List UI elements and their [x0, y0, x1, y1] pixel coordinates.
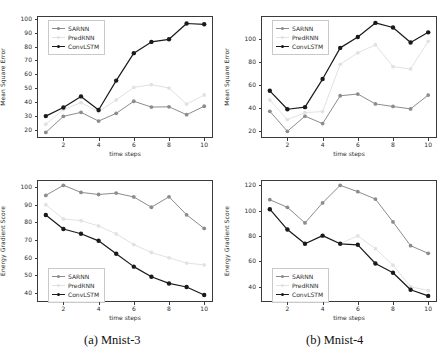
data-point: [303, 114, 307, 118]
data-point: [62, 114, 66, 118]
y-tick-label: 40: [233, 283, 256, 290]
data-point: [285, 107, 289, 111]
x-tick-label: 2: [277, 305, 297, 312]
x-tick-label: 6: [124, 305, 144, 312]
data-point: [44, 193, 48, 197]
data-point: [167, 195, 171, 199]
legend-item-sarnn[interactable]: SARNN: [276, 24, 323, 33]
data-point: [321, 110, 325, 114]
legend-label-sarnn: SARNN: [292, 24, 313, 33]
data-point: [150, 251, 154, 255]
legend-swatch-sarnn: [276, 276, 289, 277]
data-point: [374, 247, 378, 251]
legend-swatch-convlstm: [276, 46, 289, 47]
y-tick-label: 70: [9, 56, 32, 63]
y-tick-mark: [35, 293, 38, 294]
data-point: [391, 263, 395, 267]
y-tick-label: 120: [233, 181, 256, 188]
y-tick-mark: [35, 116, 38, 117]
x-tick-mark: [358, 138, 359, 141]
x-tick-label: 10: [418, 305, 438, 312]
y-tick-label: 80: [233, 232, 256, 239]
data-point: [356, 35, 360, 39]
x-tick-label: 10: [418, 141, 438, 148]
series-line: [270, 185, 428, 253]
y-tick-label: 40: [9, 289, 32, 296]
legend-label-convlstm: ConvLSTM: [68, 42, 99, 51]
series-layer: [224, 172, 448, 330]
data-point: [426, 39, 430, 43]
x-tick-mark: [63, 138, 64, 141]
x-tick-mark: [393, 138, 394, 141]
data-point: [356, 190, 360, 194]
y-tick-label: 60: [233, 257, 256, 264]
legend-item-predrnn[interactable]: PredRNN: [276, 281, 323, 290]
y-tick-mark: [259, 108, 262, 109]
data-point: [356, 234, 360, 238]
data-point: [338, 242, 342, 246]
data-point: [79, 232, 83, 236]
y-tick-label: 90: [9, 29, 32, 36]
chart-panel-mnist4-mse: Mean Square Error time steps SARNN PredR…: [224, 2, 448, 170]
legend-swatch-sarnn: [276, 28, 289, 29]
data-point: [185, 261, 189, 265]
data-point: [167, 256, 171, 260]
legend-item-predrnn[interactable]: PredRNN: [52, 281, 99, 290]
x-tick-mark: [169, 302, 170, 305]
y-tick-label: 20: [9, 126, 32, 133]
data-point: [303, 242, 307, 246]
data-point: [44, 114, 48, 118]
series-line: [270, 94, 428, 131]
y-tick-mark: [259, 62, 262, 63]
legend-item-convlstm[interactable]: ConvLSTM: [52, 42, 99, 51]
x-tick-mark: [99, 138, 100, 141]
x-tick-label: 4: [89, 141, 109, 148]
data-point: [97, 193, 101, 197]
data-point: [338, 183, 342, 187]
data-point: [408, 288, 412, 292]
legend-item-sarnn[interactable]: SARNN: [52, 24, 99, 33]
data-point: [356, 51, 360, 55]
data-point: [202, 227, 206, 231]
y-tick-label: 40: [9, 98, 32, 105]
data-point: [149, 40, 153, 44]
legend-swatch-convlstm: [52, 294, 65, 295]
legend-label-predrnn: PredRNN: [68, 281, 95, 290]
y-tick-label: 40: [233, 104, 256, 111]
legend-item-convlstm[interactable]: ConvLSTM: [276, 290, 323, 299]
data-point: [426, 289, 430, 293]
legend-item-predrnn[interactable]: PredRNN: [276, 33, 323, 42]
data-point: [303, 221, 307, 225]
x-tick-label: 8: [383, 141, 403, 148]
data-point: [62, 183, 66, 187]
y-tick-label: 60: [9, 70, 32, 77]
legend-item-sarnn[interactable]: SARNN: [52, 272, 99, 281]
x-tick-label: 2: [277, 141, 297, 148]
y-tick-label: 90: [9, 201, 32, 208]
data-point: [426, 93, 430, 97]
series-line: [46, 101, 204, 132]
y-tick-label: 20: [233, 127, 256, 134]
data-point: [202, 104, 206, 108]
data-point: [286, 118, 290, 122]
legend-item-predrnn[interactable]: PredRNN: [52, 33, 99, 42]
legend-item-convlstm[interactable]: ConvLSTM: [52, 290, 99, 299]
legend-item-convlstm[interactable]: ConvLSTM: [276, 42, 323, 51]
data-point: [132, 264, 136, 268]
x-tick-mark: [134, 138, 135, 141]
y-tick-mark: [35, 74, 38, 75]
y-tick-label: 80: [9, 218, 32, 225]
legend-item-sarnn[interactable]: SARNN: [276, 272, 323, 281]
y-tick-mark: [35, 240, 38, 241]
legend-label-convlstm: ConvLSTM: [68, 290, 99, 299]
data-point: [114, 191, 118, 195]
x-tick-mark: [204, 302, 205, 305]
data-point: [97, 119, 101, 123]
series-layer: [0, 172, 224, 330]
y-tick-mark: [259, 211, 262, 212]
y-tick-mark: [259, 85, 262, 86]
data-point: [185, 113, 189, 117]
y-tick-label: 70: [9, 236, 32, 243]
legend: SARNN PredRNN ConvLSTM: [48, 268, 105, 303]
chart-panel-mnist3-mse: Mean Square Error time steps SARNN PredR…: [0, 2, 224, 170]
